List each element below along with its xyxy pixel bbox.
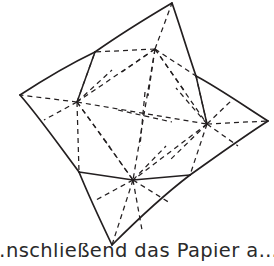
dashed-hub-right-ray-d bbox=[207, 100, 232, 124]
dashed-hub-top-ray-a bbox=[155, 49, 186, 93]
dashed-hub-top-ray-b bbox=[122, 49, 155, 72]
solid-crease-notch-bottom-right-to-hub-bottom bbox=[133, 175, 190, 180]
solid-inner-creases-group bbox=[77, 52, 207, 180]
outline-edge-top-to-notch-top-left bbox=[95, 3, 172, 52]
dashed-hub-left-to-tip-left bbox=[20, 95, 77, 102]
star-fold-diagram bbox=[0, 0, 274, 266]
dashed-hub-bottom-ray-c bbox=[96, 180, 133, 200]
dashed-hub-top-to-tip-top bbox=[155, 3, 172, 49]
outline-edge-notch-bottom-right-to-tip-right bbox=[190, 121, 268, 175]
dashed-hub-top-to-center bbox=[148, 49, 155, 96]
solid-crease-notch-bottom-left-to-hub-bottom bbox=[79, 172, 133, 180]
outline-edge-notch-top-right-to-tip-top bbox=[172, 3, 196, 76]
dashed-hub-right-ray-c bbox=[207, 124, 238, 146]
caption-region: …nschließend das Papier a… bbox=[0, 243, 274, 266]
dashed-hub-left-to-notch-bottom-left bbox=[77, 102, 79, 172]
dashed-hub-left-ray-c bbox=[44, 102, 77, 120]
dashed-hub-top-to-notch-top-left bbox=[95, 49, 155, 52]
star-outline-group bbox=[20, 3, 268, 245]
dashed-hub-right-to-tip-right bbox=[207, 121, 268, 124]
outline-edge-tip-right-to-notch-top-right bbox=[196, 76, 268, 121]
outline-edge-notch-bottom-left-to-tip-bottom bbox=[79, 172, 112, 245]
dashed-center-cross-vertical bbox=[140, 92, 145, 146]
outline-edge-notch-top-left-to-tip-left bbox=[20, 52, 95, 95]
dashed-fold-lines-group bbox=[20, 3, 268, 245]
caption-text: …nschließend das Papier a… bbox=[0, 243, 274, 262]
dashed-hub-top-to-hub-left bbox=[77, 49, 155, 102]
dashed-hub-top-to-notch-top-right bbox=[155, 49, 196, 76]
outline-edge-tip-left-to-notch-bottom-left bbox=[20, 95, 79, 172]
dashed-hub-bottom-ray-d bbox=[133, 180, 170, 203]
dashed-hub-left-ray-b bbox=[77, 102, 110, 147]
figure-page: …nschließend das Papier a… bbox=[0, 0, 274, 266]
